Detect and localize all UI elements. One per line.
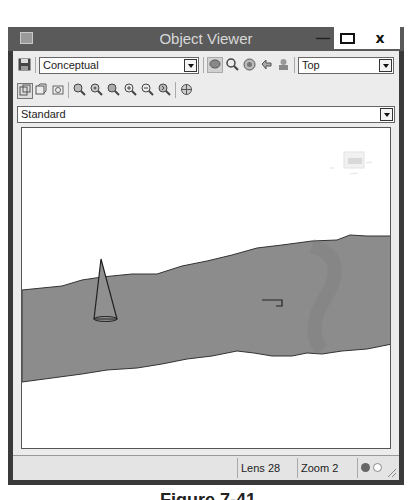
view-dropdown[interactable]: Top <box>298 57 394 74</box>
separator <box>294 57 295 73</box>
chevron-down-icon[interactable] <box>379 59 392 72</box>
title-bar[interactable]: Object Viewer — x <box>8 27 404 51</box>
zoom-previous-icon[interactable] <box>157 83 171 97</box>
active-indicator-icon[interactable] <box>361 463 370 472</box>
zoom-out-icon[interactable] <box>140 83 154 97</box>
separator <box>35 57 36 73</box>
walk-icon[interactable] <box>259 58 273 72</box>
visual-style-value: Conceptual <box>43 59 99 71</box>
chevron-down-icon[interactable] <box>380 108 393 121</box>
viewcube[interactable] <box>330 152 372 174</box>
window-body: Conceptual Top <box>13 51 399 480</box>
separator <box>175 82 176 98</box>
zoom-window-icon[interactable] <box>89 83 103 97</box>
view-value: Top <box>302 59 320 71</box>
zoom-in-icon[interactable] <box>123 83 137 97</box>
save-icon[interactable] <box>17 58 31 72</box>
minimize-button[interactable]: — <box>312 27 334 49</box>
camera-icon[interactable] <box>51 83 65 97</box>
ucs-icon[interactable] <box>179 83 193 97</box>
separator <box>203 57 204 73</box>
inactive-indicator-icon[interactable] <box>373 463 382 472</box>
visual-style-dropdown[interactable]: Conceptual <box>39 57 199 74</box>
separator <box>68 82 69 98</box>
ucs-value: Standard <box>21 108 66 120</box>
figure-caption: Figure 7-41 <box>0 490 416 500</box>
orbit-icon[interactable] <box>242 58 256 72</box>
lens-status: Lens 28 <box>237 458 297 478</box>
maximize-icon <box>340 33 355 44</box>
toolbar-bottom <box>13 79 399 101</box>
copy-clipboard-icon[interactable] <box>17 83 33 99</box>
close-button[interactable]: x <box>360 27 400 49</box>
viewport-canvas[interactable] <box>21 127 391 449</box>
zoom-realtime-icon[interactable] <box>72 83 86 97</box>
maximize-button[interactable] <box>334 27 361 49</box>
status-bar: Lens 28 Zoom 2 <box>13 455 399 480</box>
pan-icon[interactable] <box>207 57 223 73</box>
resize-grip-icon[interactable] <box>385 466 397 478</box>
zoom-extents-icon[interactable] <box>106 83 120 97</box>
chevron-down-icon[interactable] <box>184 59 197 72</box>
swivel-icon[interactable] <box>276 58 290 72</box>
zoom-status: Zoom 2 <box>297 458 357 478</box>
copy-view-icon[interactable] <box>34 83 48 97</box>
ucs-dropdown[interactable]: Standard <box>17 106 395 123</box>
toolbar-top: Conceptual Top <box>13 52 399 78</box>
object-viewer-window: Object Viewer — x Conceptual <box>8 27 404 485</box>
zoom-icon[interactable] <box>225 58 239 72</box>
